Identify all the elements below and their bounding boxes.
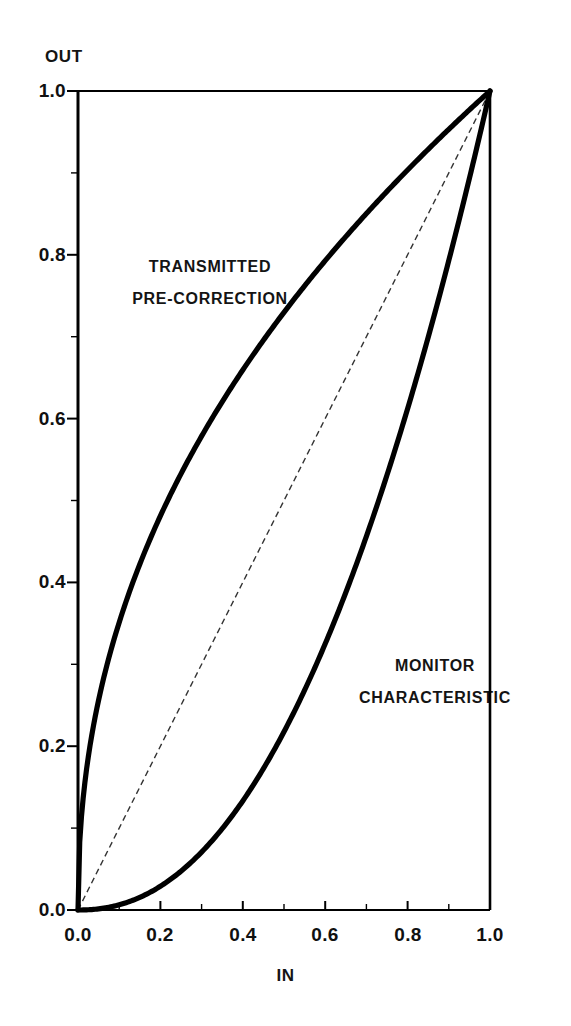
tick-marks	[67, 91, 490, 910]
curve-transmitted-pre-correction	[78, 91, 490, 910]
data-curves	[78, 91, 490, 910]
curve-monitor-characteristic	[78, 91, 490, 910]
plot-area	[0, 0, 571, 1026]
axis-lines	[78, 91, 490, 910]
chart-figure: OUT 1.0 0.8 0.6 0.4 0.2 0.0 0.0 0.2 0.4 …	[0, 0, 571, 1026]
curve-linear-reference	[78, 91, 490, 910]
